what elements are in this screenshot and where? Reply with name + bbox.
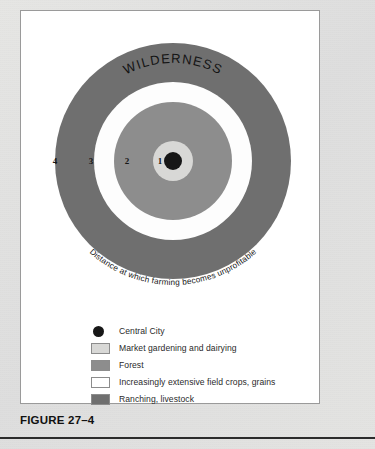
zone-label-3: 3 <box>89 156 94 166</box>
zone-label-2: 2 <box>125 156 130 166</box>
field-crops-swatch-icon <box>91 377 110 388</box>
zone-label-1: 1 <box>158 156 163 166</box>
central-city-icon <box>93 326 104 337</box>
legend-item-forest: Forest <box>91 357 306 374</box>
ranching-swatch-icon <box>91 394 110 405</box>
legend-item-field-crops: Increasingly extensive field crops, grai… <box>91 374 306 391</box>
legend-item-market-gardening: Market gardening and dairying <box>91 340 306 357</box>
legend-swatch-cell <box>91 377 119 388</box>
figure-caption: FIGURE 27–4 <box>20 414 360 426</box>
market-gardening-swatch-icon <box>91 343 110 354</box>
forest-swatch-icon <box>91 360 110 371</box>
legend-swatch-cell <box>91 394 119 405</box>
legend-label-central-city: Central City <box>119 326 165 337</box>
legend-item-ranching: Ranching, livestock <box>91 391 306 408</box>
legend-swatch-cell <box>91 326 119 337</box>
von-thunen-diagram: WILDERNESS Distance at which farming bec… <box>21 11 321 301</box>
legend-swatch-cell <box>91 360 119 371</box>
caption-area: FIGURE 27–4 <box>20 414 360 426</box>
zone-label-4: 4 <box>53 156 58 166</box>
legend-label-ranching: Ranching, livestock <box>119 394 194 405</box>
legend: Central City Market gardening and dairyi… <box>91 323 306 408</box>
legend-item-central-city: Central City <box>91 323 306 340</box>
legend-label-forest: Forest <box>119 360 144 371</box>
legend-swatch-cell <box>91 343 119 354</box>
legend-label-field-crops: Increasingly extensive field crops, grai… <box>119 377 275 388</box>
figure-panel: WILDERNESS Distance at which farming bec… <box>20 10 320 404</box>
caption-divider <box>0 437 375 439</box>
central-city-dot <box>164 152 182 170</box>
legend-label-market-gardening: Market gardening and dairying <box>119 343 237 354</box>
concentric-rings-chart: WILDERNESS Distance at which farming bec… <box>21 11 321 301</box>
